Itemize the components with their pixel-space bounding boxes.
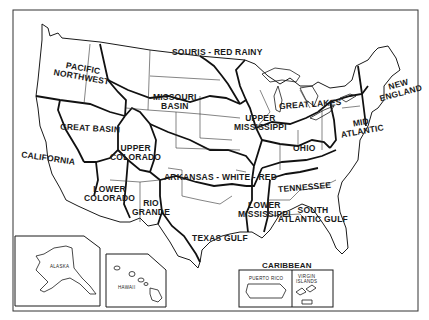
alaska-inset-frame <box>15 236 100 306</box>
label-line: ISLANDS <box>296 279 317 284</box>
hawaii-inset-frame <box>106 254 166 307</box>
label-rio-grande: RIO GRANDE <box>132 199 170 217</box>
label-line: COLORADO <box>84 194 135 203</box>
label-line: MISSISSIPPI <box>234 123 287 132</box>
label-virgin-islands: VIRGIN ISLANDS <box>296 274 317 284</box>
great-lakes-shapes <box>262 68 356 120</box>
label-upper-colorado: UPPER COLORADO <box>110 144 161 162</box>
water-resource-regions-map: SOURIS - RED RAINY PACIFIC NORTHWEST MIS… <box>0 0 429 320</box>
label-texas-gulf: TEXAS GULF <box>192 234 248 243</box>
label-hawaii: HAWAII <box>118 285 135 290</box>
label-alaska: ALASKA <box>50 264 69 269</box>
label-arkansas-white-red: ARKANSAS - WHITE - RED <box>164 173 277 182</box>
label-line: BASIN <box>153 102 197 111</box>
label-line: GRANDE <box>132 208 170 217</box>
label-caribbean: CARIBBEAN <box>262 261 312 270</box>
label-missouri-basin: MISSOURI BASIN <box>153 93 197 111</box>
label-ohio: OHIO <box>293 144 316 153</box>
hawaii-islands <box>114 266 162 302</box>
label-line: COLORADO <box>110 153 161 162</box>
virgin-islands-outline <box>296 285 316 304</box>
label-south-atlantic-gulf: SOUTH ATLANTIC GULF <box>278 206 348 224</box>
label-lower-colorado: LOWER COLORADO <box>84 185 135 203</box>
puerto-rico-outline <box>246 284 286 298</box>
label-upper-mississippi: UPPER MISSISSIPPI <box>234 114 287 132</box>
label-line: ATLANTIC GULF <box>278 215 348 224</box>
alaska-outline <box>36 246 96 294</box>
label-puerto-rico: PUERTO RICO <box>249 276 283 281</box>
label-souris-red-rainy: SOURIS - RED RAINY <box>172 48 263 57</box>
us-outline <box>36 24 400 268</box>
